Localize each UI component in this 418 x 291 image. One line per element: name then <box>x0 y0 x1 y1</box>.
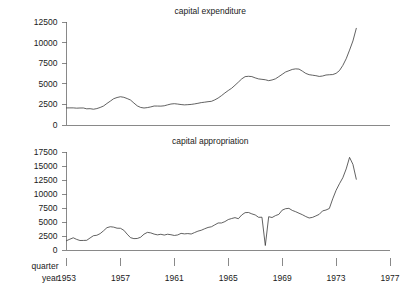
axis-row-label-year: year <box>42 273 59 283</box>
y-tick-label-0-4: 10000 <box>34 38 58 48</box>
x-tick-label-2: 1961 <box>165 273 184 283</box>
y-tick-label-1-7: 17500 <box>34 147 58 157</box>
data-series-appropriation <box>67 157 357 245</box>
x-tick-label-0: 1953 <box>57 273 76 283</box>
panel-title-1: capital appropriation <box>172 136 249 146</box>
y-tick-label-0-2: 5000 <box>39 79 58 89</box>
y-tick-label-1-1: 2500 <box>39 231 58 241</box>
chart-panel-expenditure: capital expenditure025005000750010000125… <box>34 6 390 130</box>
y-tick-label-0-3: 7500 <box>39 58 58 68</box>
chart-panel-appropriation: capital appropriation0250050007500100001… <box>34 136 390 255</box>
x-tick-label-1: 1957 <box>111 273 130 283</box>
axis-row-label-quarter: quarter <box>32 261 59 271</box>
x-tick-label-4: 1969 <box>273 273 292 283</box>
x-tick-label-3: 1965 <box>219 273 238 283</box>
panel-title-0: capital expenditure <box>175 6 247 16</box>
y-tick-label-0-0: 0 <box>53 120 58 130</box>
y-tick-label-0-5: 12500 <box>34 17 58 27</box>
chart-figure: capital expenditure025005000750010000125… <box>0 0 418 291</box>
y-tick-label-1-0: 0 <box>53 245 58 255</box>
x-tick-label-6: 1977 <box>381 273 400 283</box>
y-tick-label-0-1: 2500 <box>39 99 58 109</box>
y-tick-label-1-6: 15000 <box>34 161 58 171</box>
data-series-expenditure <box>67 28 357 109</box>
y-tick-label-1-2: 5000 <box>39 217 58 227</box>
y-tick-label-1-4: 10000 <box>34 189 58 199</box>
y-tick-label-1-3: 7500 <box>39 203 58 213</box>
chart-canvas: capital expenditure025005000750010000125… <box>0 0 418 291</box>
x-tick-label-5: 1973 <box>327 273 346 283</box>
x-axis-tick-row: 1953195719611965196919731977quarteryear <box>32 258 400 283</box>
y-tick-label-1-5: 12500 <box>34 175 58 185</box>
